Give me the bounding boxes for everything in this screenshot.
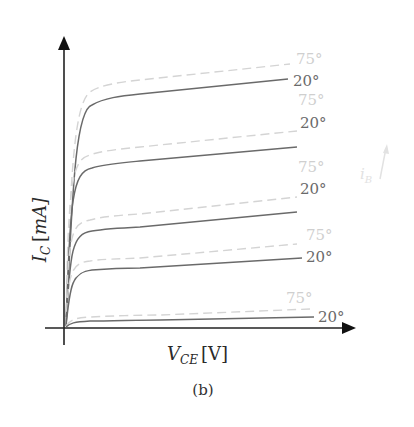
svg-text:IC[mA]: IC[mA] (29, 197, 53, 263)
label-75-4: 75° (306, 226, 333, 244)
svg-text:VCE[V]: VCE[V] (167, 343, 228, 367)
curve-20-5 (66, 317, 314, 327)
curve-group-1: 75° 20° (66, 50, 323, 326)
label-75-2: 75° (298, 91, 325, 109)
transistor-output-characteristics-chart: 75° 20° 75° 20° 75° 20° 75° 20° 75° 20° … (0, 0, 414, 427)
label-75-3: 75° (298, 158, 325, 176)
y-axis-label: IC[mA] (29, 197, 53, 263)
curve-group-5: 75° 20° (66, 289, 345, 327)
curve-20-1 (66, 79, 288, 326)
label-75-1: 75° (296, 50, 323, 68)
curve-group-4: 75° 20° (66, 226, 333, 326)
y-axis-arrow-icon (58, 36, 70, 50)
label-20-1: 20° (293, 72, 320, 90)
ib-arrow-icon (383, 144, 389, 154)
curve-20-2 (66, 147, 297, 326)
label-20-4: 20° (306, 248, 333, 266)
label-20-2: 20° (300, 114, 327, 132)
ib-annotation: iB (360, 144, 389, 185)
curve-75-1 (66, 64, 290, 326)
label-75-5: 75° (286, 289, 313, 307)
x-axis-label: VCE[V] (167, 343, 228, 367)
curve-20-4 (66, 258, 302, 326)
curve-75-2 (66, 131, 297, 326)
curve-75-3 (66, 197, 297, 326)
label-20-3: 20° (300, 180, 327, 198)
label-20-5: 20° (318, 308, 345, 326)
ib-label: iB (360, 165, 372, 185)
figure-caption: (b) (192, 381, 213, 399)
